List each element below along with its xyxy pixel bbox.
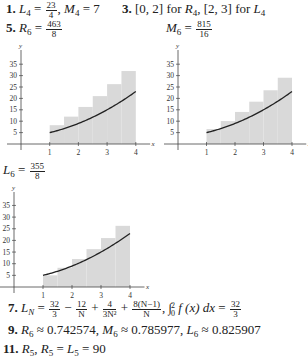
y-tick-label: 15 — [10, 105, 18, 114]
x-tick-label: 1 — [41, 291, 45, 300]
y-tick-label: 25 — [167, 83, 175, 92]
y-tick-label: 15 — [3, 248, 11, 257]
x-tick-label: 4 — [290, 148, 294, 157]
y-tick-label: 10 — [3, 259, 11, 268]
y-axis-label: y — [175, 42, 180, 50]
chart-r6-plot: xy51015202530351234 — [7, 42, 156, 157]
x-tick-label: 3 — [262, 148, 266, 157]
riemann-rectangle — [50, 125, 64, 144]
y-tick-label: 25 — [10, 83, 18, 92]
riemann-rectangle — [87, 249, 102, 287]
x-tick-label: 1 — [48, 148, 52, 157]
x-tick-label: 1 — [205, 148, 209, 157]
y-tick-label: 5 — [170, 128, 174, 137]
x-axis-label: x — [151, 140, 156, 148]
answer-9: 9. R6 ≈ 0.742574, M6 ≈ 0.785977, L6 ≈ 0.… — [8, 322, 261, 337]
fraction: 3558 — [30, 162, 46, 181]
x-tick-label: 4 — [134, 148, 138, 157]
y-tick-label: 30 — [167, 71, 175, 80]
riemann-rectangle — [264, 90, 278, 144]
x-tick-label: 2 — [233, 148, 237, 157]
y-tick-label: 15 — [167, 105, 175, 114]
riemann-rectangle — [278, 78, 292, 144]
y-tick-label: 35 — [10, 60, 18, 69]
riemann-rectangle — [43, 275, 58, 287]
y-tick-label: 5 — [13, 128, 17, 137]
x-tick-label: 3 — [105, 148, 109, 157]
x-axis-label: x — [145, 283, 150, 291]
y-tick-label: 35 — [167, 60, 175, 69]
y-tick-label: 20 — [10, 94, 18, 103]
y-tick-label: 30 — [3, 213, 11, 222]
x-tick-label: 2 — [77, 148, 81, 157]
y-tick-label: 35 — [3, 201, 11, 210]
answer-11: 11. R5, R5 = L5 = 90 — [3, 341, 106, 356]
y-tick-label: 10 — [167, 117, 175, 126]
riemann-rectangle — [64, 117, 78, 144]
x-axis-label: x — [307, 140, 308, 148]
y-tick-label: 20 — [167, 94, 175, 103]
answer-5-L6: L6 = 3558 — [3, 162, 46, 181]
riemann-rectangle — [235, 112, 249, 144]
y-axis-label: y — [18, 42, 23, 50]
chart-m6-plot: xy51015202530351234 — [164, 42, 308, 157]
riemann-rectangle — [107, 84, 121, 144]
riemann-rectangle — [78, 107, 92, 144]
y-tick-label: 30 — [10, 71, 18, 80]
riemann-rectangle — [93, 96, 107, 144]
x-tick-label: 3 — [99, 291, 103, 300]
x-tick-label: 4 — [128, 291, 132, 300]
riemann-rectangle — [121, 71, 135, 144]
chart-l6-plot: xy51015202530351234 — [0, 184, 150, 300]
y-tick-label: 25 — [3, 224, 11, 233]
y-tick-label: 10 — [10, 117, 18, 126]
y-axis-label: y — [11, 184, 16, 192]
answer-7: 7. LN = 323 − 12N + 43N² + 8(N−1)N, ∫20 … — [8, 300, 242, 319]
y-tick-label: 5 — [6, 271, 10, 280]
x-tick-label: 2 — [70, 291, 74, 300]
y-tick-label: 20 — [3, 236, 11, 245]
riemann-rectangle — [249, 102, 263, 144]
